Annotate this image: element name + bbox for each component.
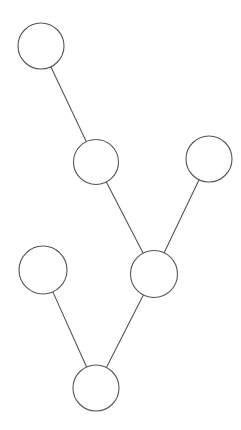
node-top-left[interactable]: [18, 23, 64, 69]
node-top-right[interactable]: [186, 136, 232, 182]
edge-top-left-to-upper-middle: [51, 67, 87, 142]
edge-layer: [51, 67, 199, 368]
edge-left-lower-to-bottom: [53, 292, 87, 367]
edge-top-right-to-center-hub: [164, 180, 199, 253]
node-left-lower[interactable]: [19, 246, 67, 294]
edge-center-hub-to-bottom: [106, 295, 143, 368]
node-center-hub[interactable]: [131, 251, 178, 298]
node-upper-middle[interactable]: [74, 140, 119, 185]
graph-diagram-canvas: [0, 0, 241, 430]
node-bottom[interactable]: [73, 365, 119, 411]
edge-upper-middle-to-center-hub: [106, 182, 143, 253]
graph-svg-root: [0, 0, 241, 430]
